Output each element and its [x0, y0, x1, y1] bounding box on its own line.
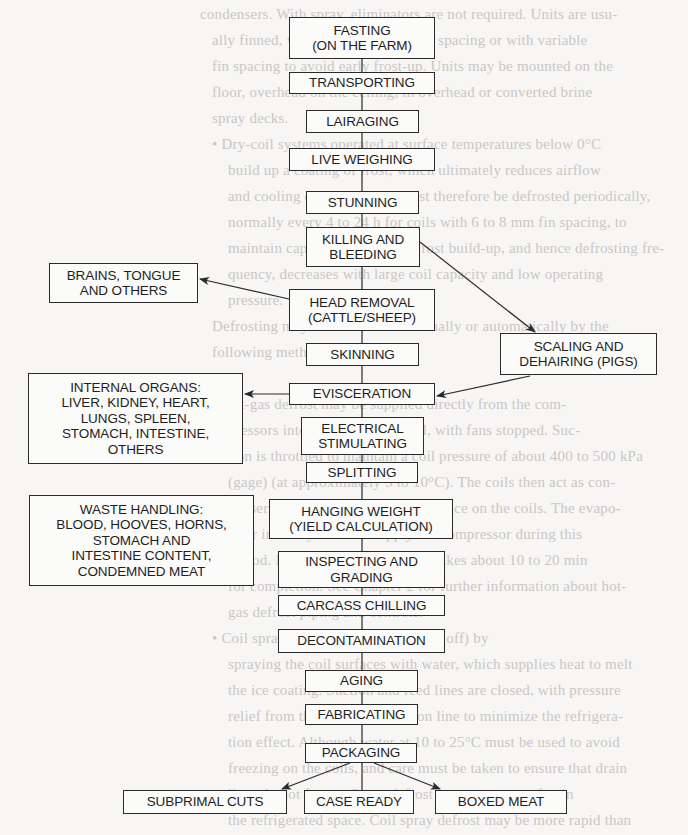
step-box-splitting: SPLITTING: [306, 462, 418, 483]
arrow-killing-to-scaling: [420, 242, 535, 332]
arrow-packaging-to-subprimal: [282, 763, 350, 789]
box-label-line: TRANSPORTING: [309, 75, 415, 91]
box-label-line: FABRICATING: [318, 707, 406, 723]
box-label-line: BLOOD, HOOVES, HORNS,: [56, 517, 226, 533]
arrow-head-removal-to-brains: [200, 279, 289, 299]
byproduct-box-waste-handling: WASTE HANDLING:BLOOD, HOOVES, HORNS,STOM…: [29, 495, 254, 586]
box-label-line: CONDEMNED MEAT: [78, 564, 205, 580]
byproduct-box-brains-tongue: BRAINS, TONGUEAND OTHERS: [49, 263, 198, 303]
box-label-line: SCALING AND: [534, 339, 624, 355]
box-label-line: SUBPRIMAL CUTS: [147, 794, 264, 810]
box-label-line: CARCASS CHILLING: [297, 598, 427, 614]
box-label-line: (ON THE FARM): [312, 38, 412, 54]
box-label-line: EVISCERATION: [313, 386, 411, 402]
step-box-lairaging: LAIRAGING: [306, 110, 419, 133]
box-label-line: DECONTAMINATION: [297, 633, 426, 649]
box-label-line: BLEEDING: [329, 247, 396, 263]
box-label-line: HANGING WEIGHT: [301, 504, 420, 520]
box-label-line: OTHERS: [108, 442, 164, 458]
box-label-line: (CATTLE/SHEEP): [308, 310, 416, 326]
box-label-line: CASE READY: [316, 794, 402, 810]
output-box-case-ready: CASE READY: [304, 790, 414, 814]
byproduct-box-internal-organs: INTERNAL ORGANS:LIVER, KIDNEY, HEART,LUN…: [28, 373, 243, 464]
step-box-transporting: TRANSPORTING: [289, 72, 435, 94]
box-label-line: LIVER, KIDNEY, HEART,: [61, 395, 209, 411]
box-label-line: AND OTHERS: [80, 283, 168, 299]
step-box-head-removal: HEAD REMOVAL(CATTLE/SHEEP): [289, 289, 435, 331]
box-label-line: BRAINS, TONGUE: [67, 268, 181, 284]
box-label-line: LUNGS, SPLEEN,: [81, 411, 191, 427]
step-box-electrical-stimulating: ELECTRICALSTIMULATING: [301, 417, 424, 455]
box-label-line: KILLING AND: [322, 232, 404, 248]
box-label-line: GRADING: [330, 570, 392, 586]
step-box-stunning: STUNNING: [306, 191, 419, 214]
box-label-line: PACKAGING: [322, 745, 400, 761]
output-box-boxed-meat: BOXED MEAT: [435, 790, 567, 814]
step-box-decontamination: DECONTAMINATION: [278, 629, 445, 653]
box-label-line: FASTING: [333, 23, 390, 39]
box-label-line: INTESTINE CONTENT,: [72, 548, 212, 564]
box-label-line: WASTE HANDLING:: [80, 502, 203, 518]
step-box-live-weighing: LIVE WEIGHING: [289, 148, 435, 171]
box-label-line: DEHAIRING (PIGS): [519, 354, 637, 370]
box-label-line: STOMACH, INTESTINE,: [62, 426, 209, 442]
step-box-hanging-weight: HANGING WEIGHT(YIELD CALCULATION): [269, 499, 453, 539]
arrow-packaging-to-boxed-meat: [374, 763, 440, 789]
box-label-line: (YIELD CALCULATION): [289, 519, 432, 535]
output-box-subprimal-cuts: SUBPRIMAL CUTS: [123, 790, 287, 814]
box-label-line: BOXED MEAT: [458, 794, 545, 810]
byproduct-box-scaling-dehairing: SCALING ANDDEHAIRING (PIGS): [500, 333, 657, 375]
box-label-line: STOMACH AND: [93, 533, 191, 549]
step-box-killing-bleeding: KILLING ANDBLEEDING: [306, 227, 420, 267]
step-box-fabricating: FABRICATING: [305, 704, 418, 725]
box-label-line: SPLITTING: [328, 465, 397, 481]
box-label-line: SKINNING: [330, 347, 394, 363]
box-label-line: HEAD REMOVAL: [309, 295, 414, 311]
step-box-fasting: FASTING(ON THE FARM): [289, 17, 435, 59]
step-box-carcass-chilling: CARCASS CHILLING: [278, 595, 445, 616]
box-label-line: STIMULATING: [318, 436, 407, 452]
box-label-line: INTERNAL ORGANS:: [70, 380, 201, 396]
box-label-line: STUNNING: [328, 195, 398, 211]
step-box-packaging: PACKAGING: [305, 743, 417, 763]
box-label-line: LIVE WEIGHING: [311, 152, 412, 168]
step-box-skinning: SKINNING: [306, 343, 419, 366]
step-box-evisceration: EVISCERATION: [289, 383, 435, 405]
step-box-inspecting-grading: INSPECTING ANDGRADING: [278, 551, 445, 588]
arrow-scaling-to-evisceration: [437, 376, 530, 396]
box-label-line: ELECTRICAL: [321, 421, 403, 437]
box-label-line: AGING: [340, 673, 383, 689]
step-box-aging: AGING: [305, 670, 418, 692]
box-label-line: INSPECTING AND: [305, 554, 418, 570]
box-label-line: LAIRAGING: [326, 114, 399, 130]
